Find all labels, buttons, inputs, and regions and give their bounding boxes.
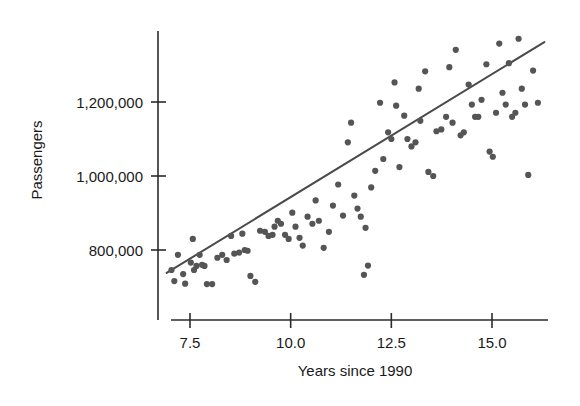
data-point — [300, 242, 306, 248]
data-point — [478, 97, 484, 103]
data-point — [180, 271, 186, 277]
data-point — [453, 47, 459, 53]
data-point — [393, 103, 399, 109]
data-point — [335, 181, 341, 187]
regression-line — [167, 42, 545, 273]
data-point — [340, 212, 346, 218]
data-point — [377, 100, 383, 106]
data-point — [499, 90, 505, 96]
data-point — [388, 136, 394, 142]
data-point — [446, 64, 452, 70]
y-tick-label: 1,200,000 — [76, 94, 143, 111]
y-tick-label: 1,000,000 — [76, 168, 143, 185]
data-point — [486, 148, 492, 154]
data-point — [286, 236, 292, 242]
data-point — [193, 263, 199, 269]
data-point — [417, 118, 423, 124]
y-axis-ticks: 800,0001,000,0001,200,000 — [76, 94, 166, 259]
regression-line-segment — [167, 42, 545, 273]
data-point — [503, 101, 509, 107]
data-point — [530, 67, 536, 73]
x-tick-label: 12.5 — [377, 334, 406, 351]
data-point — [289, 210, 295, 216]
data-point — [236, 249, 242, 255]
data-point — [449, 120, 455, 126]
data-point — [348, 120, 354, 126]
data-point — [321, 245, 327, 251]
data-point — [391, 79, 397, 85]
data-point — [422, 68, 428, 74]
data-point — [271, 224, 277, 230]
data-point — [209, 281, 215, 287]
data-point — [515, 36, 521, 42]
data-point — [425, 169, 431, 175]
data-point — [252, 279, 258, 285]
data-point — [224, 257, 230, 263]
x-axis-ticks: 7.510.012.515.0 — [180, 313, 507, 351]
x-tick-label: 7.5 — [180, 334, 201, 351]
data-point — [219, 252, 225, 258]
data-point — [168, 267, 174, 273]
data-point — [512, 110, 518, 116]
data-point — [438, 126, 444, 132]
data-point — [330, 203, 336, 209]
data-point — [461, 129, 467, 135]
data-point — [522, 101, 528, 107]
data-point — [292, 224, 298, 230]
data-point — [316, 218, 322, 224]
scatter-chart: 800,0001,000,0001,200,000 7.510.012.515.… — [0, 0, 580, 406]
data-point — [244, 248, 250, 254]
data-point — [175, 252, 181, 258]
data-point — [483, 61, 489, 67]
data-point — [401, 113, 407, 119]
data-point — [365, 262, 371, 268]
data-point — [493, 110, 499, 116]
data-point — [313, 197, 319, 203]
data-point — [351, 193, 357, 199]
data-point — [201, 263, 207, 269]
data-point — [304, 214, 310, 220]
data-point — [326, 229, 332, 235]
data-point — [404, 136, 410, 142]
data-point — [469, 101, 475, 107]
data-point — [345, 139, 351, 145]
data-point — [430, 173, 436, 179]
data-point — [182, 281, 188, 287]
data-point — [197, 252, 203, 258]
data-point — [475, 114, 481, 120]
x-tick-label: 15.0 — [477, 334, 506, 351]
data-point — [368, 184, 374, 190]
data-point — [519, 86, 525, 92]
data-points — [168, 36, 541, 288]
x-axis-title: Years since 1990 — [298, 362, 413, 379]
data-point — [188, 259, 194, 265]
data-point — [358, 214, 364, 220]
data-point — [309, 221, 315, 227]
data-point — [171, 278, 177, 284]
data-point — [228, 233, 234, 239]
data-point — [466, 82, 472, 88]
data-point — [380, 156, 386, 162]
data-point — [490, 154, 496, 160]
data-point — [385, 129, 391, 135]
chart-canvas: 800,0001,000,0001,200,000 7.510.012.515.… — [0, 0, 580, 406]
data-point — [416, 86, 422, 92]
data-point — [269, 232, 275, 238]
data-point — [412, 139, 418, 145]
data-point — [247, 273, 253, 279]
data-point — [496, 40, 502, 46]
y-tick-label: 800,000 — [89, 242, 143, 259]
data-point — [190, 236, 196, 242]
data-point — [362, 225, 368, 231]
data-point — [354, 205, 360, 211]
data-point — [296, 235, 302, 241]
data-point — [239, 231, 245, 237]
data-point — [396, 164, 402, 170]
data-point — [278, 221, 284, 227]
y-axis-title: Passengers — [28, 120, 45, 199]
data-point — [506, 60, 512, 66]
data-point — [535, 100, 541, 106]
data-point — [443, 114, 449, 120]
data-point — [372, 168, 378, 174]
x-tick-label: 10.0 — [276, 334, 305, 351]
